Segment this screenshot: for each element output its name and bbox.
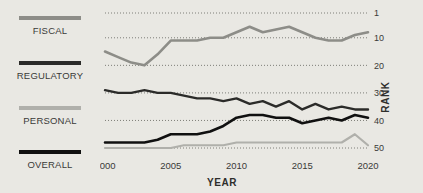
chart-plot-area: 11020304050 20002005201020152020 RANK YE… [100,0,423,193]
svg-text:20: 20 [374,61,384,71]
svg-text:2005: 2005 [160,160,181,171]
legend-label-overall: OVERALL [0,159,100,170]
svg-text:1: 1 [374,8,379,18]
chart-legend: FISCAL REGULATORY PERSONAL OVERALL [0,0,100,193]
legend-swatch-overall [19,150,81,154]
legend-swatch-regulatory [19,61,81,65]
chart-figure: FISCAL REGULATORY PERSONAL OVERALL 11020… [0,0,423,193]
legend-item-fiscal[interactable]: FISCAL [0,16,100,36]
svg-text:10: 10 [374,33,384,43]
chart-y-tick-labels: 11020304050 [374,8,384,153]
svg-text:2020: 2020 [357,160,378,171]
legend-swatch-personal [19,106,81,110]
legend-item-regulatory[interactable]: REGULATORY [0,61,100,81]
chart-x-tick-labels: 20002005201020152020 [100,160,379,171]
legend-item-overall[interactable]: OVERALL [0,150,100,170]
legend-label-fiscal: FISCAL [0,25,100,36]
legend-label-regulatory: REGULATORY [0,70,100,81]
legend-swatch-fiscal [19,16,81,20]
legend-item-personal[interactable]: PERSONAL [0,106,100,126]
legend-label-personal: PERSONAL [0,115,100,126]
x-axis-title: YEAR [207,177,237,188]
svg-text:2015: 2015 [292,160,313,171]
svg-text:2000: 2000 [100,160,116,171]
svg-text:50: 50 [374,143,384,153]
y-axis-title: RANK [380,81,391,112]
svg-text:2010: 2010 [226,160,247,171]
svg-text:40: 40 [374,116,384,126]
chart-series-lines [105,27,368,148]
